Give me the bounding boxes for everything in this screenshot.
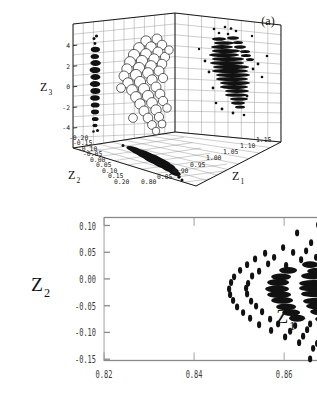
y-tick-m005: -0.05	[75, 299, 96, 312]
z3-axis-label: Z	[40, 80, 47, 94]
z1-tick-080: 0.80	[141, 178, 157, 186]
y-axis-label: Z	[31, 274, 43, 295]
panel-b-2d-scatter: 0.10 0.05 0.00 -0.05 -0.10 -0.15 0.82 0.…	[0, 198, 317, 393]
panel-a-3d-scatter: 4 2 0 -2 -4 Z 3 -0.20 -0.15 -0.10 -0.05 …	[0, 0, 317, 198]
scatter-points	[227, 221, 317, 362]
x-axis-label-sub: 1	[289, 319, 295, 333]
y-tick-m010: -0.10	[75, 326, 96, 339]
z3-tick-0: 0	[66, 83, 70, 91]
z1-tick-100: 1.00	[206, 154, 222, 162]
y-tick-m015: -0.15	[75, 352, 96, 365]
3d-scatter-svg: 4 2 0 -2 -4 Z 3 -0.20 -0.15 -0.10 -0.05 …	[0, 0, 317, 198]
z3-tick-2: 2	[66, 63, 70, 71]
x-tick-086: 0.86	[276, 367, 293, 380]
panel-tag-a: (a)	[261, 14, 274, 28]
z1-axis-label: Z	[232, 169, 239, 183]
x-tick-084: 0.84	[186, 367, 203, 380]
y-axis-label-sub: 2	[44, 286, 50, 300]
z1-tick-090: 0.90	[173, 167, 189, 175]
z1-tick-115: 1.15	[256, 136, 272, 144]
z2-axis-label: Z	[68, 168, 75, 182]
z3-axis: 4 2 0 -2 -4 Z 3	[40, 42, 77, 132]
z1-tick-105: 1.05	[223, 148, 239, 156]
z2-axis-label-sub: 2	[77, 176, 81, 185]
z3-tick-m4: -4	[62, 124, 70, 132]
x-axis-label: Z	[276, 306, 288, 327]
y-tick-010: 0.10	[79, 219, 96, 232]
2d-scatter-svg: 0.10 0.05 0.00 -0.05 -0.10 -0.15 0.82 0.…	[0, 198, 317, 393]
z3-tick-m2: -2	[62, 104, 70, 112]
figure-container: 4 2 0 -2 -4 Z 3 -0.20 -0.15 -0.10 -0.05 …	[0, 0, 317, 393]
z1-tick-085: 0.85	[157, 173, 173, 181]
y-tick-000: 0.00	[79, 272, 96, 285]
y-tick-005: 0.05	[79, 245, 96, 258]
z1-tick-095: 0.95	[190, 161, 206, 169]
x-tick-082: 0.82	[96, 367, 113, 380]
z3-axis-label-sub: 3	[49, 88, 53, 97]
z1-tick-110: 1.10	[240, 142, 256, 150]
z1-axis-label-sub: 1	[241, 177, 245, 186]
z3-tick-4: 4	[66, 42, 70, 50]
z2-tick-020: 0.20	[114, 178, 130, 186]
